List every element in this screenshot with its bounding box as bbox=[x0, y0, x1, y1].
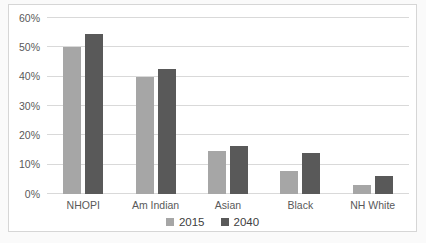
bar-2015-nhopi bbox=[63, 47, 81, 194]
bar-2040-black bbox=[302, 153, 320, 194]
x-tick-label: Asian bbox=[192, 199, 264, 213]
legend-2015-label: 2015 bbox=[179, 216, 205, 228]
legend-2040-label: 2040 bbox=[234, 216, 260, 228]
y-tick-label: 60% bbox=[19, 13, 40, 24]
y-tick-label: 50% bbox=[19, 42, 40, 53]
bar-group-am-indian bbox=[119, 18, 191, 194]
y-tick-label: 0% bbox=[25, 189, 40, 200]
x-tick-label: NH White bbox=[337, 199, 409, 213]
legend-2040-swatch-icon bbox=[221, 218, 229, 226]
x-axis: NHOPIAm IndianAsianBlackNH White bbox=[47, 199, 409, 213]
bar-2015-nh-white bbox=[353, 185, 371, 194]
bar-2040-asian bbox=[230, 146, 248, 194]
chart-frame: 0%10%20%30%40%50%60% NHOPIAm IndianAsian… bbox=[8, 4, 417, 232]
bar-2040-nhopi bbox=[85, 34, 103, 194]
y-tick-label: 20% bbox=[19, 130, 40, 141]
bar-group-black bbox=[264, 18, 336, 194]
legend-item-2015: 2015 bbox=[166, 216, 205, 228]
bar-2040-nh-white bbox=[375, 176, 393, 194]
bar-2015-am-indian bbox=[136, 77, 154, 194]
plot-area bbox=[47, 18, 409, 194]
bar-group-asian bbox=[192, 18, 264, 194]
bar-2015-asian bbox=[208, 151, 226, 194]
y-tick-label: 30% bbox=[19, 101, 40, 112]
y-tick-label: 10% bbox=[19, 159, 40, 170]
bar-group-nhopi bbox=[47, 18, 119, 194]
x-tick-label: NHOPI bbox=[47, 199, 119, 213]
bar-group-nh-white bbox=[337, 18, 409, 194]
x-tick-label: Black bbox=[264, 199, 336, 213]
bar-2015-black bbox=[280, 171, 298, 194]
bar-2040-am-indian bbox=[158, 69, 176, 194]
y-tick-label: 40% bbox=[19, 71, 40, 82]
legend: 2015 2040 bbox=[9, 216, 416, 228]
legend-2015-swatch-icon bbox=[166, 218, 174, 226]
legend-item-2040: 2040 bbox=[221, 216, 260, 228]
y-axis: 0%10%20%30%40%50%60% bbox=[9, 18, 43, 194]
x-tick-label: Am Indian bbox=[119, 199, 191, 213]
